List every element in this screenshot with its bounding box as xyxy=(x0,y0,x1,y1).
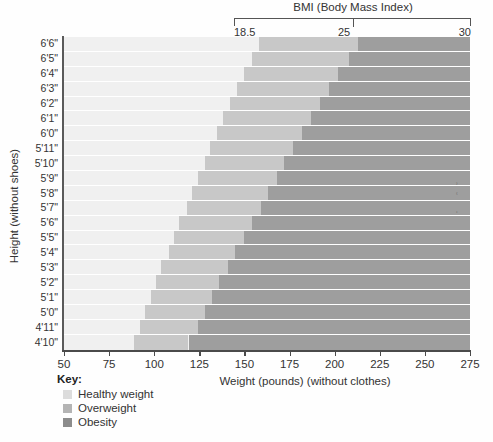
band-obesity xyxy=(212,290,470,304)
x-axis-tick xyxy=(109,350,110,356)
legend: Key: Healthy weightOverweightObesity xyxy=(57,373,153,428)
y-axis-tick-label: 5'0" xyxy=(2,306,58,318)
legend-label: Overweight xyxy=(78,402,136,414)
plot-row xyxy=(64,260,470,275)
band-obesity xyxy=(252,216,470,230)
band-obesity xyxy=(302,126,470,140)
band-obesity xyxy=(235,245,470,259)
band-overweight xyxy=(134,335,188,350)
legend-title: Key: xyxy=(57,373,153,385)
band-healthy xyxy=(64,126,217,140)
legend-swatch xyxy=(63,404,72,413)
band-healthy xyxy=(64,171,198,185)
band-overweight xyxy=(252,52,349,66)
band-healthy xyxy=(64,290,151,304)
x-axis-tick xyxy=(380,350,381,356)
band-overweight xyxy=(223,111,311,125)
x-axis-tick-label: 150 xyxy=(235,358,254,370)
band-overweight xyxy=(198,171,277,185)
x-axis-tick xyxy=(425,350,426,356)
y-axis-tick-label: 4'11" xyxy=(2,321,58,333)
band-overweight xyxy=(230,97,320,111)
x-axis-tick-label: 275 xyxy=(460,358,479,370)
band-healthy xyxy=(64,67,244,81)
band-overweight xyxy=(205,156,284,170)
band-obesity xyxy=(277,171,470,185)
band-healthy xyxy=(64,141,210,155)
band-healthy xyxy=(64,335,134,350)
x-axis-tick-label: 200 xyxy=(325,358,344,370)
band-overweight xyxy=(217,126,302,140)
x-axis-tick xyxy=(470,350,471,356)
bmi-chart: BMI (Body Mass Index) 18.5 25 30 6'6"6'5… xyxy=(0,0,493,442)
y-axis-tick-label: 6'3" xyxy=(2,82,58,94)
plot-row xyxy=(64,156,470,171)
x-axis-line xyxy=(62,350,471,352)
x-axis-tick-label: 100 xyxy=(145,358,164,370)
x-axis-tick xyxy=(335,350,336,356)
y-axis-tick-label: 6'6" xyxy=(2,37,58,49)
band-overweight xyxy=(192,186,268,200)
plot-row xyxy=(64,67,470,82)
legend-item: Obesity xyxy=(63,416,153,428)
bmi-midpoint-tick xyxy=(353,18,354,27)
plot-row xyxy=(64,97,470,112)
band-overweight xyxy=(151,290,212,304)
legend-swatch xyxy=(63,390,72,399)
band-healthy xyxy=(64,37,259,51)
y-axis-tick-label: 6'1" xyxy=(2,112,58,124)
plot-row xyxy=(64,52,470,67)
band-overweight xyxy=(174,231,244,245)
band-healthy xyxy=(64,97,230,111)
plot-row xyxy=(64,305,470,320)
band-obesity xyxy=(293,141,470,155)
plot-row xyxy=(64,186,470,201)
band-obesity xyxy=(320,97,470,111)
band-obesity xyxy=(219,275,470,289)
band-healthy xyxy=(64,111,223,125)
y-axis-title: Height (without shoes) xyxy=(8,126,20,286)
plot-row xyxy=(64,245,470,260)
plot-row xyxy=(64,320,470,335)
band-obesity xyxy=(358,37,470,51)
band-healthy xyxy=(64,156,205,170)
band-overweight xyxy=(210,141,293,155)
band-overweight xyxy=(179,216,251,230)
x-axis-tick-label: 50 xyxy=(58,358,71,370)
legend-items: Healthy weightOverweightObesity xyxy=(57,388,153,428)
band-overweight xyxy=(140,320,198,334)
band-obesity xyxy=(349,52,470,66)
x-axis-tick-label: 125 xyxy=(190,358,209,370)
band-obesity xyxy=(228,260,470,274)
band-healthy xyxy=(64,186,192,200)
legend-label: Obesity xyxy=(78,416,117,428)
band-obesity xyxy=(244,231,470,245)
y-axis-tick-label: 6'4" xyxy=(2,67,58,79)
band-overweight xyxy=(145,305,205,319)
y-axis-tick-label: 5'1" xyxy=(2,291,58,303)
band-obesity xyxy=(198,320,470,334)
band-healthy xyxy=(64,320,140,334)
band-obesity xyxy=(329,82,470,96)
legend-swatch xyxy=(63,418,72,427)
x-axis-title: Weight (pounds) (without clothes) xyxy=(190,375,420,387)
band-healthy xyxy=(64,216,179,230)
band-obesity xyxy=(189,335,470,350)
band-overweight xyxy=(237,82,329,96)
x-axis-tick-label: 75 xyxy=(103,358,116,370)
plot-row xyxy=(64,201,470,216)
band-obesity xyxy=(311,111,470,125)
plot-area xyxy=(64,37,470,350)
band-healthy xyxy=(64,305,145,319)
band-obesity xyxy=(261,201,470,215)
x-axis-tick-label: 225 xyxy=(370,358,389,370)
x-axis-tick xyxy=(290,350,291,356)
x-axis-tick-label: 250 xyxy=(415,358,434,370)
y-axis-line xyxy=(62,36,64,351)
band-healthy xyxy=(64,231,174,245)
x-axis-tick xyxy=(64,350,65,356)
legend-label: Healthy weight xyxy=(78,388,153,400)
y-axis-tick-label: 6'2" xyxy=(2,97,58,109)
x-axis-tick-label: 175 xyxy=(280,358,299,370)
band-overweight xyxy=(156,275,219,289)
